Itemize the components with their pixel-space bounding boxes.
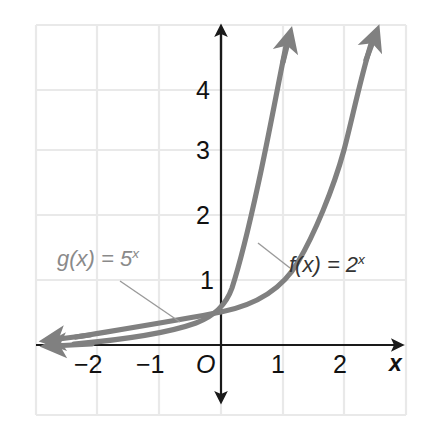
curve-label-f-exponent: x bbox=[358, 252, 365, 267]
curve-label-f-base: f(x) = 2 bbox=[289, 252, 358, 277]
x-tick-2: 2 bbox=[333, 352, 347, 377]
y-tick-3: 3 bbox=[196, 138, 210, 163]
curve-label-g: g(x) = 5x bbox=[57, 248, 139, 270]
origin-label: O bbox=[196, 352, 215, 377]
exponential-functions-graph: 4 3 2 1 −2 −1 O 1 2 x g(x) = 5x f(x) = 2… bbox=[0, 0, 434, 436]
curve-label-f: f(x) = 2x bbox=[289, 254, 365, 276]
y-tick-1: 1 bbox=[200, 268, 214, 293]
curve-label-g-base: g(x) = 5 bbox=[57, 246, 132, 271]
y-tick-2: 2 bbox=[196, 203, 210, 228]
leader-line-f bbox=[258, 243, 290, 268]
y-tick-4: 4 bbox=[196, 78, 210, 103]
x-tick-minus-1: −1 bbox=[136, 352, 165, 377]
leader-line-g bbox=[120, 281, 180, 322]
graph-canvas bbox=[0, 0, 434, 436]
curve-label-g-exponent: x bbox=[132, 246, 139, 261]
x-axis-label: x bbox=[389, 352, 402, 375]
x-tick-minus-2: −2 bbox=[74, 352, 103, 377]
x-tick-1: 1 bbox=[271, 352, 285, 377]
curve-f-2x bbox=[51, 36, 375, 340]
